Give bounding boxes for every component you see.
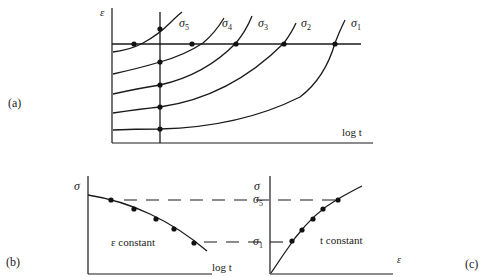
panel-label-b: (b) [6, 256, 20, 268]
label-sigma3: σ3 [258, 17, 268, 32]
curve-sigma1 [113, 20, 345, 130]
label-sigma1: σ1 [351, 17, 361, 32]
panel-label-c: (c) [465, 258, 478, 270]
panel-c-epsilon-axis-label: ε [397, 255, 401, 265]
panel-a-axes [112, 8, 373, 143]
panel-c-axes [270, 176, 393, 274]
panel-label-a: (a) [8, 97, 21, 109]
label-sigma2: σ2 [301, 17, 311, 32]
log-t-axis-label: log t [342, 127, 362, 138]
tick-label-sigma5: σ5 [253, 193, 263, 208]
curve-sigma5 [113, 12, 182, 52]
epsilon-constant-annotation: ε constant [111, 237, 155, 248]
panel-b-axes [88, 176, 212, 274]
panel-b-logt-axis-label: log t [212, 262, 232, 273]
panel-b-sigma-axis-label: σ [74, 180, 80, 192]
label-sigma4: σ4 [222, 17, 232, 32]
panel-c-sigma-axis-label: σ [254, 180, 260, 192]
epsilon-axis-label: ε [100, 7, 104, 18]
diagram-canvas [0, 0, 492, 277]
tick-label-sigma1: σ1 [253, 235, 263, 250]
panel-a-points [131, 26, 337, 131]
t-constant-annotation: t constant [320, 235, 362, 246]
panel-c-curve [271, 186, 362, 273]
label-sigma5: σ5 [179, 17, 189, 32]
